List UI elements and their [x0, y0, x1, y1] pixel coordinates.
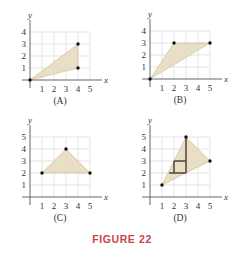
vertex-point	[172, 41, 175, 44]
y-tick-label: 3	[142, 156, 147, 166]
vertex-point	[76, 66, 79, 69]
y-tick-label: 3	[22, 156, 27, 166]
x-axis-label: x	[223, 192, 228, 202]
y-tick-label: 2	[22, 168, 27, 178]
figure-caption: FIGURE 22	[0, 233, 244, 245]
vertex-point	[40, 171, 43, 174]
vertex-point	[160, 183, 163, 186]
x-tick-label: 3	[184, 83, 189, 93]
shaded-triangle	[150, 43, 210, 79]
vertex-point	[208, 159, 211, 162]
y-tick-label: 3	[142, 38, 147, 48]
x-tick-label: 3	[64, 84, 69, 94]
x-tick-label: 5	[208, 201, 213, 211]
vertex-point	[28, 78, 31, 81]
x-tick-label: 4	[76, 201, 81, 211]
y-tick-label: 1	[142, 180, 147, 190]
y-tick-label: 4	[142, 144, 147, 154]
x-tick-label: 4	[196, 201, 201, 211]
y-tick-label: 1	[142, 62, 147, 72]
x-tick-label: 1	[40, 84, 45, 94]
plot-panel-c: xy1234512345(C)	[22, 115, 109, 224]
panel-label: (A)	[53, 96, 66, 107]
y-tick-label: 4	[22, 144, 27, 154]
y-tick-label: 4	[142, 26, 147, 36]
plot-panel-d: xy1234512345(D)	[142, 115, 229, 224]
x-tick-label: 5	[208, 83, 213, 93]
vertex-point	[184, 135, 187, 138]
plot-panel-a: xy123451234(A)	[22, 10, 109, 107]
panel-label: (C)	[54, 213, 67, 224]
vertex-point	[88, 171, 91, 174]
plot-panel-b: xy123451234(B)	[142, 9, 229, 106]
y-axis-label: y	[27, 115, 32, 125]
y-tick-label: 1	[22, 180, 27, 190]
x-tick-label: 2	[172, 201, 177, 211]
x-tick-label: 1	[160, 83, 165, 93]
x-tick-label: 4	[76, 84, 81, 94]
panel-label: (D)	[173, 213, 186, 224]
y-tick-label: 2	[22, 51, 27, 61]
y-tick-label: 1	[22, 63, 27, 73]
x-tick-label: 2	[52, 201, 57, 211]
x-axis-label: x	[223, 74, 228, 84]
x-tick-label: 1	[160, 201, 165, 211]
x-tick-label: 4	[196, 83, 201, 93]
y-tick-label: 2	[142, 50, 147, 60]
coordinate-plots: xy123451234(A)xy123451234(B)xy1234512345…	[0, 0, 244, 257]
x-axis-label: x	[103, 75, 108, 85]
x-tick-label: 2	[172, 83, 177, 93]
y-tick-label: 2	[142, 168, 147, 178]
vertex-point	[76, 42, 79, 45]
x-axis-label: x	[103, 192, 108, 202]
y-axis-label: y	[147, 9, 152, 19]
x-tick-label: 3	[184, 201, 189, 211]
y-tick-label: 4	[22, 27, 27, 37]
figure-22: xy123451234(A)xy123451234(B)xy1234512345…	[0, 0, 244, 257]
x-tick-label: 3	[64, 201, 69, 211]
y-axis-label: y	[27, 10, 32, 20]
x-tick-label: 2	[52, 84, 57, 94]
x-tick-label: 5	[88, 201, 93, 211]
vertex-point	[148, 77, 151, 80]
y-tick-label: 5	[142, 132, 147, 142]
vertex-point	[64, 147, 67, 150]
vertex-point	[208, 41, 211, 44]
x-tick-label: 1	[40, 201, 45, 211]
y-axis-label: y	[147, 115, 152, 125]
y-tick-label: 3	[22, 39, 27, 49]
panel-label: (B)	[174, 95, 187, 106]
y-tick-label: 5	[22, 132, 27, 142]
x-tick-label: 5	[88, 84, 93, 94]
